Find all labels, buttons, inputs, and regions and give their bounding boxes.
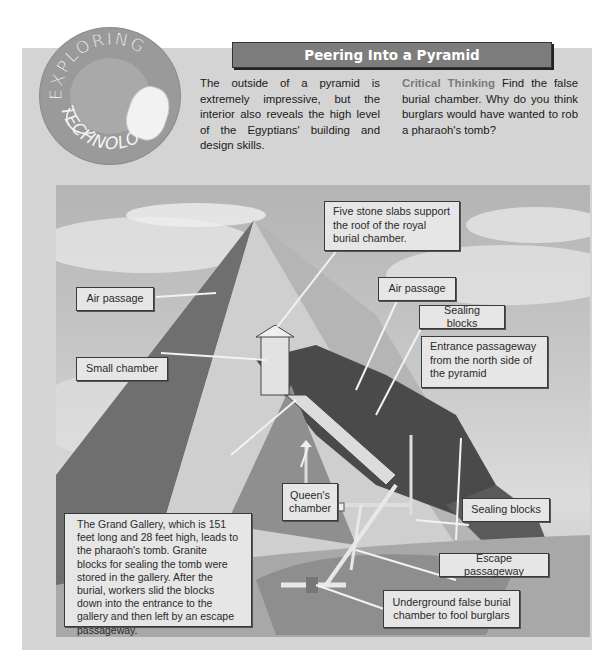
badge-lettering: EXPLORING TECHNOLOGY — [40, 28, 180, 164]
pyramid-illustration: Five stone slabs support the roof of the… — [56, 185, 590, 637]
label-five-stone-slabs: Five stone slabs support the roof of the… — [324, 201, 460, 251]
critical-thinking-lead: Critical Thinking — [402, 77, 495, 89]
label-air-passage-right: Air passage — [378, 277, 456, 301]
svg-text:TECHNOLOGY: TECHNOLOGY — [57, 103, 162, 153]
label-sealing-blocks-upper: Sealing blocks — [419, 305, 505, 329]
label-sealing-blocks-lower: Sealing blocks — [462, 498, 550, 522]
label-escape-passageway: Escape passageway — [439, 553, 549, 577]
label-false-burial-chamber: Underground false burial chamber to fool… — [383, 590, 520, 628]
critical-thinking: Critical Thinking Find the false burial … — [402, 76, 578, 138]
page-title: Peering Into a Pyramid — [232, 42, 552, 68]
exploring-technology-badge: EXPLORING TECHNOLOGY — [40, 28, 180, 164]
svg-text:EXPLORING: EXPLORING — [46, 29, 150, 101]
label-grand-gallery: The Grand Gallery, which is 151 feet lon… — [64, 513, 252, 627]
badge-top-text: EXPLORING — [46, 29, 150, 101]
label-air-passage-left: Air passage — [76, 287, 154, 311]
intro-text: The outside of a pyramid is extremely im… — [200, 76, 380, 154]
label-entrance-passageway: Entrance passageway from the north side … — [421, 336, 548, 388]
label-queens-chamber: Queen's chamber — [282, 483, 338, 521]
label-small-chamber: Small chamber — [76, 357, 168, 381]
badge-bottom-text: TECHNOLOGY — [57, 103, 162, 153]
